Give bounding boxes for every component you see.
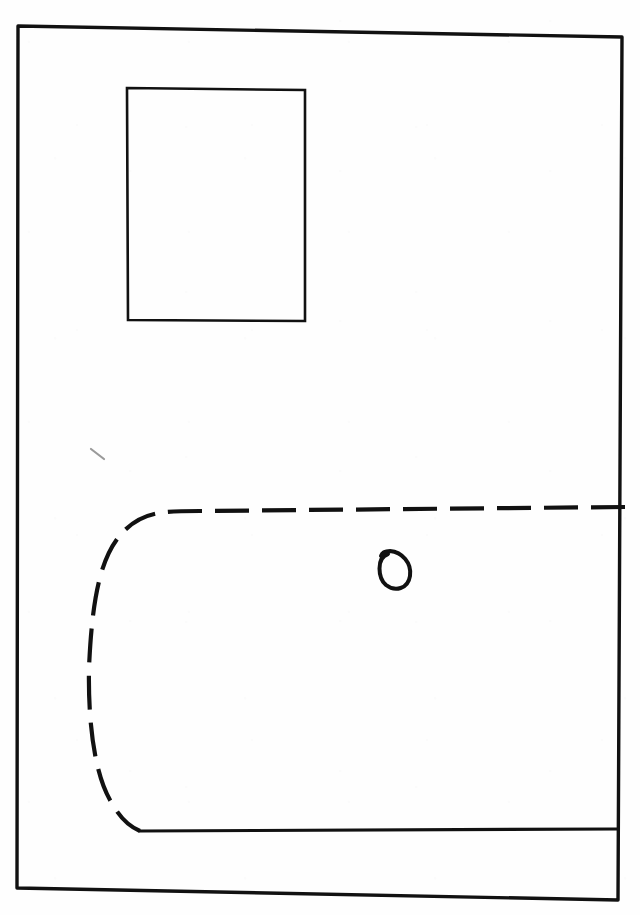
inner-rectangle [127, 88, 305, 321]
outer-frame [17, 26, 622, 900]
small-circle [380, 551, 411, 589]
dashed-path-stroke [89, 507, 625, 831]
solid-bottom-line-stroke [140, 829, 617, 831]
faint-tick-mark [91, 449, 104, 459]
small-circle-stroke [380, 551, 411, 589]
solid-bottom-line [140, 829, 617, 831]
dashed-path [89, 507, 625, 831]
sketch-canvas [0, 0, 640, 915]
faint-tick-mark-stroke [91, 449, 104, 459]
outer-frame-path [17, 26, 622, 900]
inner-rectangle-path [127, 88, 305, 321]
sketch-page [0, 0, 640, 915]
